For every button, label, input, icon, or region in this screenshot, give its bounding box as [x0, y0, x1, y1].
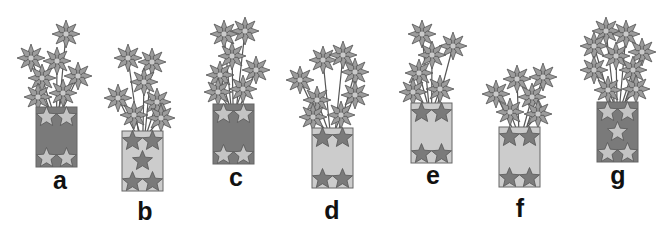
flower-icon	[231, 17, 259, 45]
flower-icon	[130, 68, 158, 96]
flower-icon	[242, 56, 270, 84]
flower-icon	[594, 76, 622, 104]
vase-label-e: e	[426, 163, 440, 188]
flower-icon	[341, 81, 369, 109]
flower-icon	[524, 100, 552, 128]
vase-label-f: f	[516, 196, 524, 221]
flower-icon	[147, 104, 175, 132]
flower-icon	[28, 64, 56, 92]
flower-icon	[52, 20, 80, 48]
vase-label-c: c	[229, 165, 243, 190]
flower-icon	[327, 101, 355, 129]
flower-icon	[619, 56, 647, 84]
vase-group-c	[204, 17, 270, 164]
flower-icon	[218, 42, 246, 70]
flower-icon	[114, 44, 142, 72]
flower-icon	[580, 56, 608, 84]
flower-icon	[286, 66, 314, 94]
vase-label-g: g	[610, 163, 625, 188]
vase-group-b	[104, 44, 175, 191]
flower-icon	[49, 79, 77, 107]
vase-label-d: d	[324, 198, 339, 223]
flower-icon	[309, 46, 337, 74]
flower-icon	[120, 101, 148, 129]
vase-group-a	[17, 20, 92, 167]
vase-group-g	[580, 17, 656, 162]
vase-label-b: b	[137, 199, 152, 224]
vase-group-e	[399, 20, 467, 163]
flower-icon	[496, 98, 524, 126]
flower-icon	[210, 20, 238, 48]
vase-group-d	[286, 41, 369, 188]
flower-icon	[138, 48, 166, 76]
flower-icon	[622, 75, 650, 103]
flower-icon	[503, 65, 531, 93]
flower-icon	[204, 78, 232, 106]
flower-icon	[405, 59, 433, 87]
flower-icon	[299, 103, 327, 131]
flower-icon	[426, 75, 454, 103]
flower-icon	[399, 78, 427, 106]
flower-icon	[229, 75, 257, 103]
vase-group-f	[482, 63, 557, 187]
vase-label-a: a	[53, 168, 67, 193]
flower-icon	[418, 41, 446, 69]
flower-icon	[482, 80, 510, 108]
